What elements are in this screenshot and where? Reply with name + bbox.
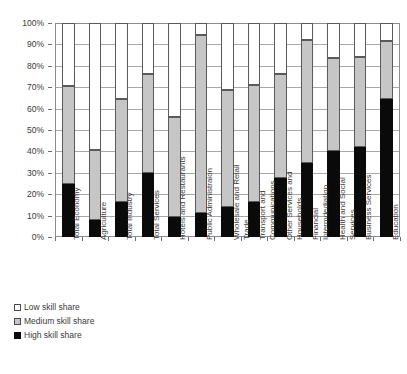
chart-legend: Low skill shareMedium skill shareHigh sk… <box>14 300 94 342</box>
x-axis-label: Total Industry <box>125 130 135 240</box>
legend-label: High skill share <box>24 328 82 342</box>
bar-segment-low-skill <box>301 23 314 40</box>
legend-swatch-icon <box>14 304 21 311</box>
x-axis-label: FinancialIntermdediation <box>311 130 330 240</box>
bar-segment-low-skill <box>62 23 75 86</box>
bar-segment-low-skill <box>221 23 234 90</box>
y-tick-mark <box>48 130 52 131</box>
y-tick-mark <box>48 151 52 152</box>
bar-segment-low-skill <box>168 23 181 117</box>
stacked-bar-chart: 0%10%20%30%40%50%60%70%80%90%100% Total … <box>0 0 407 374</box>
y-tick-mark <box>48 87 52 88</box>
y-tick-mark <box>48 173 52 174</box>
bar-segment-low-skill <box>195 23 208 35</box>
x-axis-label: Total Economy <box>72 130 82 240</box>
bar-segment-low-skill <box>115 23 128 99</box>
bar-segment-low-skill <box>380 23 393 41</box>
x-axis-labels: Total EconomyAgricultureTotal IndustryTo… <box>55 240 400 352</box>
y-tick-mark <box>48 44 52 45</box>
y-tick-label: 20% <box>27 190 44 199</box>
y-tick-label: 90% <box>27 40 44 49</box>
y-tick-label: 80% <box>27 62 44 71</box>
y-tick-label: 50% <box>27 126 44 135</box>
y-tick-label: 60% <box>27 105 44 114</box>
x-axis-label: Agriculture <box>99 130 109 240</box>
x-axis-label: Total Services <box>152 130 162 240</box>
y-axis: 0%10%20%30%40%50%60%70%80%90%100% <box>0 0 52 245</box>
legend-item: Low skill share <box>14 300 94 314</box>
x-axis-label: Business Services <box>364 130 374 240</box>
y-tick-mark <box>48 216 52 217</box>
bar-segment-medium-skill <box>380 41 393 99</box>
y-tick-label: 10% <box>27 212 44 221</box>
bar-segment-low-skill <box>327 23 340 58</box>
y-tick-label: 0% <box>32 233 44 242</box>
y-tick-mark <box>48 109 52 110</box>
y-tick-mark <box>48 23 52 24</box>
legend-swatch-icon <box>14 318 21 325</box>
y-tick-mark <box>48 194 52 195</box>
legend-label: Low skill share <box>24 300 80 314</box>
y-tick-label: 40% <box>27 147 44 156</box>
x-axis-label: Wholesale and RetailTrade <box>232 130 251 240</box>
bar-segment-low-skill <box>248 23 261 85</box>
legend-item: Medium skill share <box>14 314 94 328</box>
legend-item: High skill share <box>14 328 94 342</box>
x-axis-label: Education <box>391 130 401 240</box>
y-tick-label: 100% <box>22 19 44 28</box>
x-axis-label: Hotels and Restaurants <box>178 130 188 240</box>
y-tick-label: 70% <box>27 83 44 92</box>
legend-label: Medium skill share <box>24 314 94 328</box>
legend-swatch-icon <box>14 332 21 339</box>
y-tick-label: 30% <box>27 169 44 178</box>
y-tick-mark <box>48 66 52 67</box>
y-tick-mark <box>48 237 52 238</box>
x-axis-label: Public Administraion <box>205 130 215 240</box>
x-axis-label: Health and SocialServices <box>338 130 357 240</box>
bar-segment-low-skill <box>142 23 155 74</box>
bar-segment-low-skill <box>274 23 287 74</box>
x-axis-label: Other Services andHouseholds <box>285 130 304 240</box>
bar-segment-low-skill <box>354 23 367 57</box>
x-axis-label: Transport andCommunications <box>258 130 277 240</box>
